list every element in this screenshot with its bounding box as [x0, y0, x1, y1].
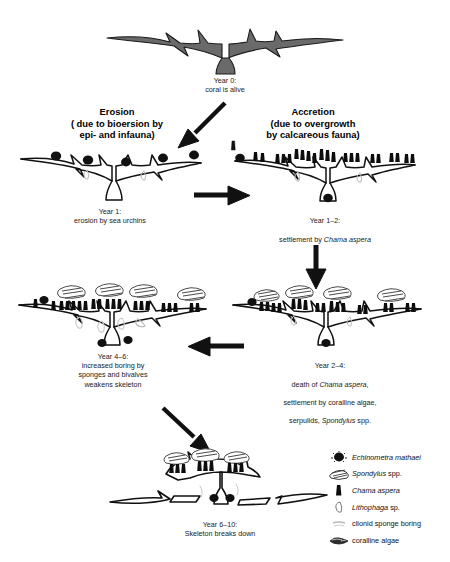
legend-label-echinometra: Echinometra mathaei [352, 453, 421, 462]
sea-urchin-icon [326, 451, 352, 463]
spondylus-group-year-2-4 [254, 286, 405, 302]
caption-year-2-4-species-spondylus: Spondylus [322, 416, 356, 425]
chama-shell-icon [326, 484, 352, 497]
sea-urchin-group-year-6-10 [209, 494, 234, 502]
legend-item-clionid: clionid sponge boring [326, 515, 448, 532]
caption-year-1: Year 1: erosion by sea urchins [25, 207, 195, 225]
legend-label-coralline-algae: coralline algae [352, 536, 399, 545]
caption-year-0: Year 0: coral is alive [160, 76, 290, 94]
legend-item-chama: Chama aspera [326, 482, 448, 499]
caption-year-1-2-species: Chama aspera [324, 235, 371, 244]
legend: Echinometra mathaei Spondylus spp. Chama… [326, 449, 448, 549]
legend-label-coralline-algae-plain: coralline algae [352, 536, 399, 545]
lithophaga-icon [326, 501, 352, 514]
legend-label-spondylus-italic: Spondylus [352, 469, 386, 478]
legend-label-echinometra-italic: Echinometra mathaei [352, 453, 421, 462]
legend-label-clionid-plain: clionid sponge boring [352, 519, 421, 528]
caption-year-2-4-species-chama: Chama aspera [319, 380, 366, 389]
coral-year-0 [104, 14, 346, 76]
caption-year-2-4-line4-pre: serpulids, [289, 416, 322, 425]
caption-year-6-10: Year 6–10: Skeleton breaks down [135, 520, 305, 538]
caption-year-2-4-line2-pre: death of [291, 380, 319, 389]
heading-accretion: Accretion (due to overgrowth by calcareo… [238, 106, 388, 141]
caption-year-1-2: Year 1–2: settlement by Chama aspera [240, 207, 410, 244]
chama-shell-group [231, 141, 235, 150]
clionid-boring-icon [326, 519, 352, 529]
coral-year-2-4 [230, 283, 426, 349]
legend-label-lithophaga-plain: sp. [388, 503, 400, 512]
diagram-canvas: Year 0: coral is alive Erosion ( due to … [0, 0, 450, 562]
coral-year-1-2 [232, 141, 418, 205]
coral-year-6-10 [108, 444, 330, 512]
legend-item-spondylus: Spondylus spp. [326, 466, 448, 483]
caption-year-2-4: Year 2–4: death of Chama aspera, settlem… [240, 352, 420, 426]
caption-year-2-4-line4-post: spp. [355, 416, 371, 425]
caption-year-4-6: Year 4–6: increased boring by sponges an… [28, 352, 198, 389]
coral-year-4-6 [14, 283, 210, 349]
caption-year-2-4-line3: settlement by coralline algae, [283, 398, 376, 407]
caption-year-2-4-line1: Year 2–4: [315, 361, 346, 370]
coral-year-1 [18, 143, 204, 205]
legend-label-lithophaga-italic: Lithophaga [352, 503, 388, 512]
spondylus-shell-icon [326, 467, 352, 480]
coral-live-body [107, 29, 343, 74]
spondylus-group-year-4-6 [58, 284, 206, 301]
legend-item-lithophaga: Lithophaga sp. [326, 499, 448, 516]
heading-erosion: Erosion ( due to bioersion by epi- and i… [42, 106, 192, 141]
legend-label-clionid: clionid sponge boring [352, 519, 421, 528]
caption-year-2-4-line2-post: , [367, 380, 369, 389]
legend-label-chama: Chama aspera [352, 486, 400, 495]
coralline-algae-icon [326, 535, 352, 545]
legend-label-spondylus-plain: spp. [386, 469, 402, 478]
legend-item-echinometra: Echinometra mathaei [326, 449, 448, 466]
legend-label-chama-italic: Chama aspera [352, 486, 400, 495]
legend-item-coralline-algae: coralline algae [326, 532, 448, 549]
chama-shells-year-1-2 [253, 149, 415, 163]
legend-label-lithophaga: Lithophaga sp. [352, 503, 400, 512]
caption-year-1-2-line1: Year 1–2: [310, 216, 341, 225]
legend-label-spondylus: Spondylus spp. [352, 469, 402, 478]
